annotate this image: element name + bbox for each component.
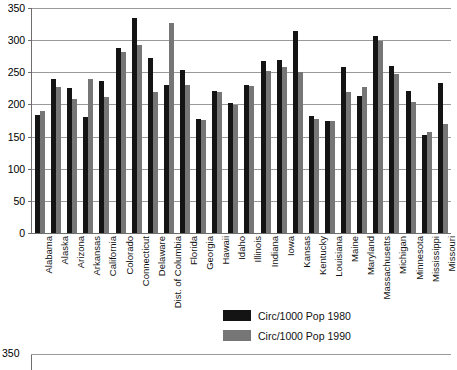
x-axis-label-cell: Dist. of Columbia: [160, 236, 176, 331]
bar-group: [258, 8, 274, 233]
y-axis: 050100150200250300350: [0, 0, 28, 245]
legend-item: Circ/1000 Pop 1980: [223, 307, 403, 324]
bar-group: [193, 8, 209, 233]
bar: [362, 87, 367, 233]
bar-group: [161, 8, 177, 233]
next-chart-top-gridline: [31, 354, 451, 355]
y-axis-tick-label: 0: [19, 228, 25, 239]
bar-group: [177, 8, 193, 233]
bar: [169, 23, 174, 233]
bar: [298, 72, 303, 233]
bar: [137, 45, 142, 233]
bar-group: [48, 8, 64, 233]
bar-group: [113, 8, 129, 233]
x-axis-label-cell: Alabama: [31, 236, 47, 331]
bar-group: [129, 8, 145, 233]
bar-group: [80, 8, 96, 233]
x-axis-label-cell: Florida: [176, 236, 192, 331]
legend-swatch: [223, 330, 251, 341]
x-axis-label-cell: Alaska: [47, 236, 63, 331]
legend-item: Circ/1000 Pop 1990: [223, 327, 403, 344]
chart-plot-wrapper: 050100150200250300350 AlabamaAlaskaArizo…: [0, 0, 453, 245]
next-chart-peek: 350: [0, 345, 453, 370]
bar: [282, 67, 287, 233]
x-axis-label-cell: California: [95, 236, 111, 331]
bar: [411, 102, 416, 233]
bar: [346, 92, 351, 233]
x-axis-tick-label: Missouri: [446, 236, 457, 271]
bar-group: [354, 8, 370, 233]
bar: [330, 121, 335, 234]
bar-group: [64, 8, 80, 233]
bar-group: [96, 8, 112, 233]
bar-group: [322, 8, 338, 233]
bar-group: [386, 8, 402, 233]
chart-legend: Circ/1000 Pop 1980Circ/1000 Pop 1990: [223, 307, 403, 347]
bar: [314, 119, 319, 233]
legend-label: Circ/1000 Pop 1980: [258, 310, 351, 322]
x-axis-label-cell: Missouri: [434, 236, 450, 331]
bar-group: [370, 8, 386, 233]
bar: [394, 74, 399, 233]
y-axis-tick-label: 150: [8, 131, 25, 142]
x-axis-label-cell: Georgia: [192, 236, 208, 331]
y-axis-tick-label: 50: [14, 196, 25, 207]
x-axis-label-cell: Minnesota: [402, 236, 418, 331]
x-axis-label-cell: Arkansas: [79, 236, 95, 331]
bar-group: [32, 8, 48, 233]
bar: [378, 41, 383, 233]
legend-swatch: [223, 310, 251, 321]
bar-group: [419, 8, 435, 233]
bar: [201, 120, 206, 233]
x-axis-label-cell: Connecticut: [128, 236, 144, 331]
bar: [443, 124, 448, 233]
bar: [249, 86, 254, 233]
y-axis-tick-label: 100: [8, 163, 25, 174]
bar-group: [306, 8, 322, 233]
bar-group: [209, 8, 225, 233]
bar: [266, 71, 271, 233]
bar: [233, 105, 238, 233]
bar: [72, 99, 77, 233]
y-axis-tick-label: 250: [8, 67, 25, 78]
bar-group: [145, 8, 161, 233]
x-axis-label-cell: Hawaii: [208, 236, 224, 331]
bar: [104, 97, 109, 233]
plot-area: [31, 8, 451, 234]
bar-group: [290, 8, 306, 233]
bar-group: [338, 8, 354, 233]
x-axis-label-cell: Delaware: [144, 236, 160, 331]
y-axis-tick-label: 350: [8, 3, 25, 14]
y-axis-tick-label: 300: [8, 35, 25, 46]
bar-groups: [32, 8, 451, 233]
bar: [427, 132, 432, 233]
bar: [121, 52, 126, 233]
y-axis-tick: [28, 233, 32, 234]
bar-group: [274, 8, 290, 233]
bar: [56, 87, 61, 233]
bar: [217, 92, 222, 233]
x-axis-label-cell: Arizona: [63, 236, 79, 331]
bar: [153, 92, 158, 233]
next-chart-y-axis-line: [31, 354, 32, 370]
bar: [185, 85, 190, 234]
x-axis-label-cell: Mississippi: [418, 236, 434, 331]
bar: [88, 79, 93, 233]
next-chart-top-tick: 350: [2, 347, 20, 359]
bar-group: [435, 8, 451, 233]
x-axis-label-cell: Colorado: [112, 236, 128, 331]
bar: [40, 111, 45, 233]
bar-group: [403, 8, 419, 233]
bar-group: [225, 8, 241, 233]
y-axis-tick-label: 200: [8, 99, 25, 110]
legend-label: Circ/1000 Pop 1990: [258, 330, 351, 342]
bar-group: [241, 8, 257, 233]
